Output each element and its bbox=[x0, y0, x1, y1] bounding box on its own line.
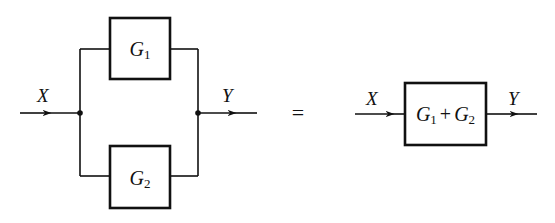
parallel-diagram: X G1 G2 Y bbox=[20, 18, 257, 208]
input-label-x: X bbox=[36, 85, 50, 106]
output-label-y: Y bbox=[222, 85, 235, 106]
block-diagram: X G1 G2 Y = X G1+G2 bbox=[0, 0, 555, 223]
equals-sign: = bbox=[292, 100, 304, 125]
equivalent-diagram: X G1+G2 Y bbox=[355, 83, 537, 145]
equiv-input-label-x: X bbox=[365, 88, 379, 109]
equiv-output-label-y: Y bbox=[508, 88, 521, 109]
block-g1-plus-g2-label: G1+G2 bbox=[416, 103, 475, 127]
